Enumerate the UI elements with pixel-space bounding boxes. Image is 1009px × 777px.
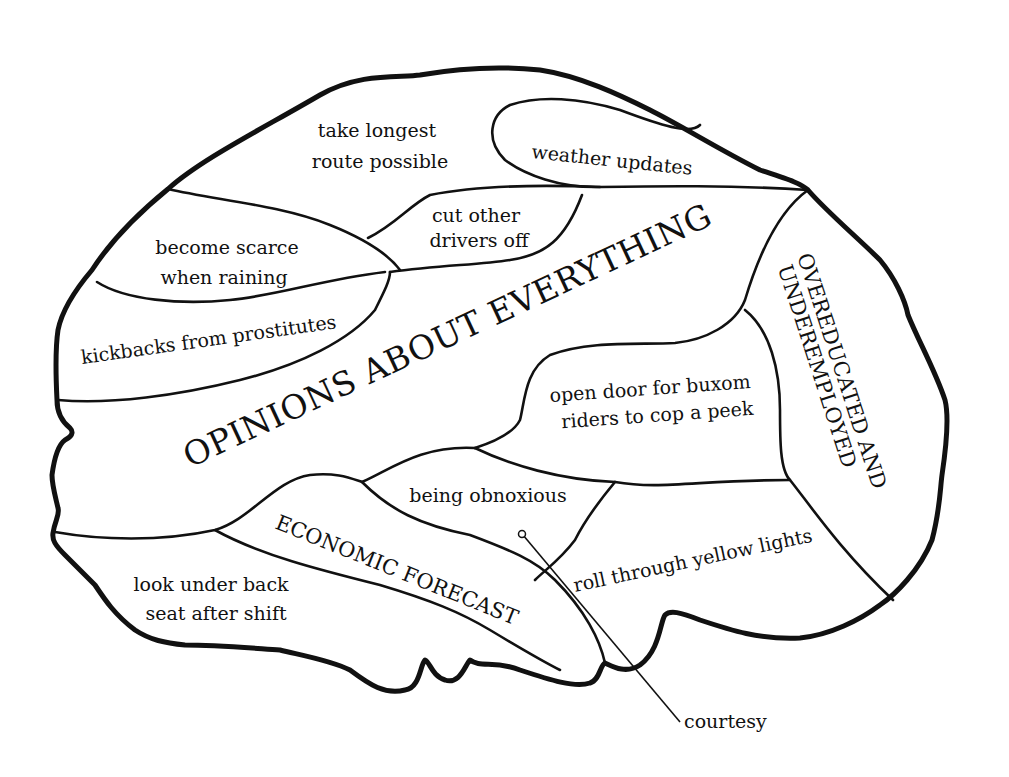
courtesy-pointer-dot <box>519 531 526 538</box>
region-label-mid-lower: being obnoxious <box>409 484 566 506</box>
callout-label-courtesy: courtesy <box>684 710 767 732</box>
brain-diagram: take longest route possible weather upda… <box>0 0 1009 777</box>
